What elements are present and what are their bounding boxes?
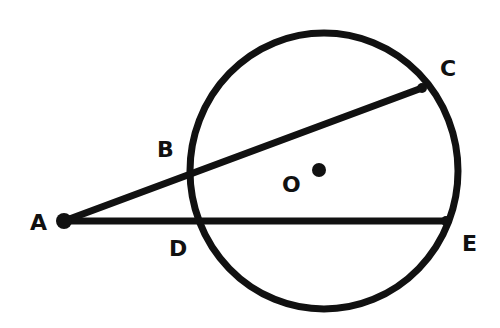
point-e-dot: [441, 216, 451, 226]
label-d: D: [169, 236, 187, 261]
secant-abc: [64, 88, 422, 221]
label-o: O: [282, 172, 301, 197]
label-c: C: [440, 56, 456, 81]
geometry-diagram: A B C D E O: [0, 0, 500, 328]
label-e: E: [462, 231, 477, 256]
label-a: A: [30, 210, 47, 235]
point-a-dot: [56, 213, 72, 229]
diagram-svg: A B C D E O: [0, 0, 500, 328]
center-o-dot: [312, 163, 326, 177]
point-c-dot: [417, 83, 427, 93]
label-b: B: [157, 137, 174, 162]
